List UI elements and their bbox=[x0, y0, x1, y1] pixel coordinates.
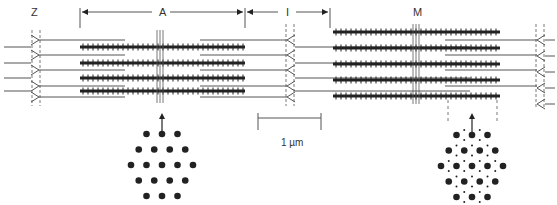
thick-filament-dot bbox=[476, 178, 483, 185]
thick-filament-dot bbox=[159, 193, 166, 200]
thick-filament-dot bbox=[151, 177, 158, 184]
thick-filament-dot bbox=[135, 146, 142, 153]
thin-filament-dot bbox=[479, 191, 481, 193]
thick-filament-dot bbox=[174, 131, 181, 138]
thin-filament-dot bbox=[448, 170, 450, 172]
thick-filament-dot bbox=[453, 132, 460, 139]
thick-filament-dot bbox=[151, 146, 158, 153]
arrowhead-up bbox=[159, 113, 165, 119]
thick-filament-dot bbox=[143, 193, 150, 200]
thick-filament-dot bbox=[166, 177, 173, 184]
thick-filament-dot bbox=[190, 162, 197, 169]
arrowhead-up bbox=[469, 113, 475, 119]
thick-filament-dot bbox=[159, 131, 166, 138]
thick-filament-dot bbox=[469, 132, 476, 139]
arrowhead bbox=[247, 9, 253, 15]
thin-filament-dot bbox=[456, 186, 458, 188]
thick-filament-dot bbox=[135, 177, 142, 184]
diagram-canvas bbox=[0, 0, 557, 205]
thin-filament-dot bbox=[463, 129, 465, 131]
arrowhead bbox=[237, 9, 243, 15]
arrowhead bbox=[82, 9, 88, 15]
thick-filament-dot bbox=[484, 132, 491, 139]
thick-filament-dot bbox=[461, 147, 468, 154]
thin-filament-dot bbox=[471, 176, 473, 178]
thin-filament-dot bbox=[463, 201, 465, 203]
thick-filament-dot bbox=[484, 163, 491, 170]
thick-filament-dot bbox=[445, 178, 452, 185]
thick-filament-dot bbox=[182, 177, 189, 184]
thin-filament-dot bbox=[448, 160, 450, 162]
thick-filament-dot bbox=[469, 163, 476, 170]
thick-filament-dot bbox=[166, 146, 173, 153]
thick-filament-dot bbox=[453, 194, 460, 201]
thin-filament-dot bbox=[463, 170, 465, 172]
thick-filament-dot bbox=[476, 147, 483, 154]
thin-filament-dot bbox=[463, 160, 465, 162]
thick-filament-dot bbox=[453, 163, 460, 170]
thick-filament-dot bbox=[159, 162, 166, 169]
thin-filament-dot bbox=[479, 129, 481, 131]
thick-filament-dot bbox=[182, 146, 189, 153]
thin-filament-dot bbox=[487, 176, 489, 178]
thick-filament-dot bbox=[438, 163, 445, 170]
thin-filament-dot bbox=[456, 155, 458, 157]
thick-filament-dot bbox=[484, 194, 491, 201]
thick-filament-dot bbox=[445, 147, 452, 154]
thin-filament-dot bbox=[479, 170, 481, 172]
thick-filament-dot bbox=[143, 162, 150, 169]
thin-filament-dot bbox=[479, 201, 481, 203]
scale-bar-label: 1 µm bbox=[279, 137, 305, 149]
thick-filament-dot bbox=[174, 162, 181, 169]
thin-filament-dot bbox=[487, 155, 489, 157]
thin-filament-dot bbox=[479, 139, 481, 141]
thin-filament-dot bbox=[471, 186, 473, 188]
thin-filament-dot bbox=[494, 170, 496, 172]
thin-filament-dot bbox=[487, 186, 489, 188]
thin-filament-dot bbox=[456, 176, 458, 178]
arrowhead bbox=[322, 9, 328, 15]
a-band-label: A bbox=[157, 6, 168, 18]
sarcomere-diagram: Z A I M 1 µm bbox=[0, 0, 557, 205]
thick-filament-dot bbox=[174, 193, 181, 200]
thin-filament-dot bbox=[456, 145, 458, 147]
thick-filament-dot bbox=[492, 147, 499, 154]
thin-filament-dot bbox=[479, 160, 481, 162]
thin-filament-dot bbox=[471, 155, 473, 157]
thick-filament-dot bbox=[143, 131, 150, 138]
thin-filament-dot bbox=[471, 145, 473, 147]
thin-filament-dot bbox=[463, 139, 465, 141]
thin-filament-dot bbox=[463, 191, 465, 193]
i-band-label: I bbox=[284, 6, 291, 18]
thick-filament-dot bbox=[128, 162, 135, 169]
thin-filament-dot bbox=[487, 145, 489, 147]
thick-filament-dot bbox=[469, 194, 476, 201]
thick-filament-dot bbox=[461, 178, 468, 185]
thick-filament-dot bbox=[500, 163, 507, 170]
m-line-label: M bbox=[411, 6, 424, 18]
thick-filament-dot bbox=[492, 178, 499, 185]
thin-filament-dot bbox=[494, 160, 496, 162]
z-label: Z bbox=[29, 6, 40, 18]
